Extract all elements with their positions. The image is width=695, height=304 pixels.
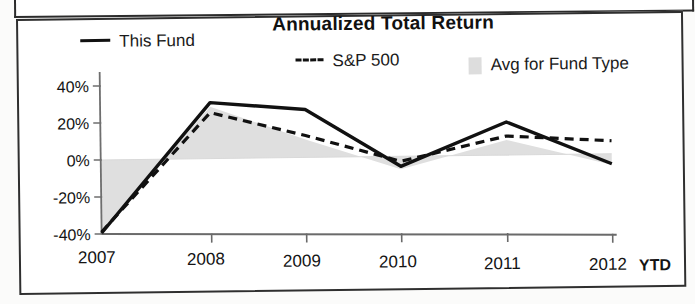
x-tick-2010: 2010 (379, 252, 417, 272)
x-tick-2011: 2011 (484, 254, 521, 274)
x-axis-ytd-label: YTD (639, 256, 671, 274)
chart-plot-area: Annualized Total Return This Fund S&P 50… (18, 13, 684, 293)
x-tick-2007: 2007 (78, 248, 116, 268)
x-tick-2008: 2008 (187, 249, 225, 269)
x-tick-2012: 2012 (589, 255, 627, 275)
chart-frame: Annualized Total Return This Fund S&P 50… (16, 11, 686, 295)
x-axis-labels: 2007 2008 2009 2010 2011 2012 YTD (18, 13, 684, 293)
x-tick-2009: 2009 (283, 251, 321, 271)
